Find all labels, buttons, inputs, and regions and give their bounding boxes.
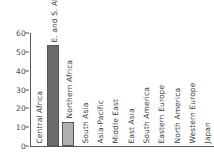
category-label: South Asia: [82, 102, 90, 143]
bar: [62, 122, 74, 146]
category-label: South America: [143, 87, 151, 143]
bar-chart: 0 10 20 30 40 50 60 Central AfricaE. and…: [0, 0, 214, 160]
bar-column: Eastern Europe: [153, 33, 167, 146]
bar-column: Japan: [199, 33, 213, 146]
bar-column: South America: [138, 33, 152, 146]
category-label: Japan: [204, 122, 212, 143]
category-label: Asia-Pacific: [97, 100, 105, 143]
bar-column: Western Europe: [184, 33, 198, 146]
bar-column: Middle East: [107, 33, 121, 146]
y-tick-mark: [25, 89, 29, 90]
bar-column: North America: [169, 33, 183, 146]
y-tick-mark: [25, 70, 29, 71]
category-label: Central Africa: [36, 91, 44, 143]
bar-column: South Asia: [77, 33, 91, 146]
y-tick-mark: [25, 146, 29, 147]
bar-column: E. and S. Afr: [46, 33, 60, 146]
category-label: Eastern Europe: [158, 84, 166, 143]
category-label: Western Europe: [189, 82, 197, 143]
y-tick-mark: [25, 127, 29, 128]
y-tick-mark: [25, 33, 29, 34]
bar-column: Northern Africa: [61, 33, 75, 146]
plot-area: Central AfricaE. and S. AfrNorthern Afri…: [30, 0, 214, 160]
bar-column: Central Africa: [31, 33, 45, 146]
category-label: Middle East: [112, 99, 120, 143]
category-label: E. and S. Afr: [51, 0, 59, 42]
category-label: East Asia: [128, 108, 136, 143]
category-label: North America: [174, 87, 182, 143]
y-tick-mark: [25, 51, 29, 52]
bar: [47, 45, 59, 146]
category-label: Northern Africa: [66, 60, 74, 119]
y-tick-mark: [25, 108, 29, 109]
bar-column: Asia-Pacific: [92, 33, 106, 146]
bar-column: East Asia: [123, 33, 137, 146]
